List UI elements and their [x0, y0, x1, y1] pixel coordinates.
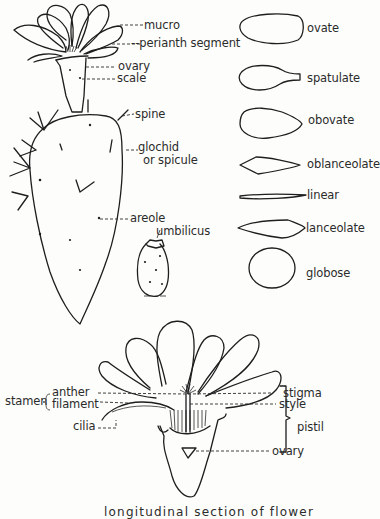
label-lanceolate: lanceolate — [306, 223, 365, 235]
label-style: style — [279, 399, 306, 411]
label-globose: globose — [306, 268, 350, 280]
figure-caption: longitudinal section of flower — [104, 506, 314, 518]
flower-section-illustration — [99, 321, 281, 497]
label-spatulate: spatulate — [307, 73, 360, 85]
label-areole: areole — [130, 213, 165, 225]
label-ovary-flower: ovary — [272, 446, 304, 458]
leaf-shape-linear — [240, 194, 306, 198]
label-umbilicus: umbilicus — [156, 226, 210, 238]
label-ovate: ovate — [307, 23, 339, 35]
label-perianth-segment: --perianth segment — [131, 38, 240, 50]
leaf-shape-obovate — [240, 108, 302, 138]
leaf-shape-ovate — [240, 14, 303, 44]
label-linear: linear — [307, 190, 339, 202]
label-stamen: stamen — [5, 396, 48, 408]
cactus-pad-illustration — [10, 100, 128, 324]
label-glochid: glochid — [138, 142, 179, 154]
cactus-flower-illustration — [14, 4, 123, 112]
label-perianth-segment-text: perianth segment — [139, 36, 240, 50]
label-spine: spine — [135, 109, 165, 121]
label-cilia: cilia — [73, 421, 95, 433]
label-filament: filament — [52, 399, 99, 411]
label-pistil: pistil — [297, 422, 324, 434]
label-scale: scale — [117, 73, 146, 85]
label-or-spicule: or spicule — [143, 155, 198, 167]
leaf-shape-oblanceolate — [240, 157, 300, 174]
leaf-shape-spatulate — [239, 66, 300, 91]
label-oblanceolate: oblanceolate — [307, 159, 380, 171]
label-obovate: obovate — [308, 115, 354, 127]
label-mucro: mucro — [144, 20, 180, 32]
leaf-shape-lanceolate — [238, 220, 305, 238]
cactus-fruit-illustration — [137, 240, 168, 296]
leaf-shape-globose — [249, 248, 295, 288]
